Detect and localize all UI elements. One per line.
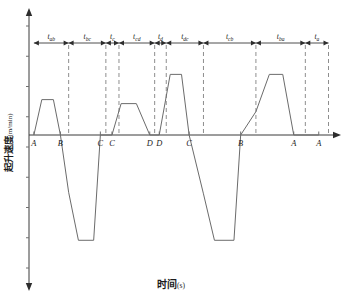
interval-label-t_dc: tdc (181, 32, 189, 42)
segment-boundary-dashed-lines (69, 45, 329, 136)
hoisting-speed-time-chart: tabtbctctcdtdtdctcbtbata ABCCDDCBAA 时间(s… (0, 0, 343, 301)
station-label-D: D (146, 139, 153, 148)
interval-labels: tabtbctctcdtdtdctcbtbata (47, 32, 319, 42)
y-axis-arrow-up-icon (26, 8, 32, 16)
station-label-A: A (290, 139, 297, 148)
y-axis-group (26, 8, 32, 291)
dimension-arrow-right-icon (324, 41, 329, 46)
dimension-arrow-right-icon (300, 41, 305, 46)
station-point-labels: ABCCDDCBAA (30, 132, 322, 149)
interval-label-t_a: ta (314, 32, 319, 42)
dimension-arrow-left-icon (305, 41, 310, 46)
interval-label-t_cb: tcb (226, 32, 234, 42)
station-label-C: C (98, 139, 104, 148)
interval-label-t_ba: tba (277, 32, 285, 42)
interval-label-t_cd: tcd (133, 32, 141, 42)
x-axis-arrow-right-icon (333, 132, 341, 138)
y-axis-arrow-down-icon (26, 283, 32, 291)
station-label-B: B (58, 139, 63, 148)
speed-profile-polyline (34, 74, 319, 240)
dimension-arrow-right-icon (251, 41, 256, 46)
interval-label-t_d: td (158, 32, 163, 42)
dimension-arrow-right-icon (198, 41, 203, 46)
chart-container: tabtbctctcdtdtdctcbtbata ABCCDDCBAA 时间(s… (0, 0, 343, 301)
interval-label-t_ab: tab (47, 32, 55, 42)
station-label-A: A (30, 139, 37, 148)
station-label-D: D (155, 139, 162, 148)
dimension-arrow-left-icon (256, 41, 261, 46)
x-axis-title: 时间(s) (157, 278, 185, 290)
dimension-arrow-left-icon (69, 41, 74, 46)
y-axis-title: 起升速度(m/min) (3, 113, 14, 174)
interval-label-t_bc: tbc (84, 32, 92, 42)
station-label-B: B (238, 139, 243, 148)
dimension-arrow-left-icon (106, 41, 111, 46)
dimension-arrow-left-icon (166, 41, 171, 46)
dimension-arrow-right-icon (64, 41, 69, 46)
dimension-arrow-right-icon (150, 41, 155, 46)
dimension-arrow-right-icon (101, 41, 106, 46)
dimension-arrow-left-icon (119, 41, 124, 46)
dimension-arrow-left-icon (203, 41, 208, 46)
dimension-arrow-left-icon (155, 41, 160, 46)
dimension-arrow-left-icon (34, 41, 39, 46)
station-label-A: A (315, 139, 322, 148)
station-label-C: C (186, 139, 192, 148)
station-label-C: C (109, 139, 115, 148)
interval-label-t_c: tc (110, 32, 115, 42)
